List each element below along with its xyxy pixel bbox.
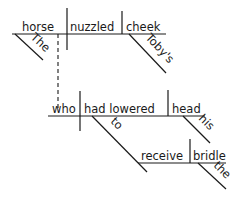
word-object-modifier: Toby's xyxy=(142,30,177,66)
word-verb: nuzzled xyxy=(70,20,114,34)
word-rel-object: head xyxy=(172,102,201,116)
sentence-diagram: horse nuzzled cheek The Toby's who had l… xyxy=(0,0,238,202)
word-infinitive-connector: to xyxy=(108,114,126,132)
word-rel-subject: who xyxy=(52,102,76,116)
word-rel-verb: had lowered xyxy=(84,102,155,116)
word-infinitive-verb: receive xyxy=(141,149,183,163)
